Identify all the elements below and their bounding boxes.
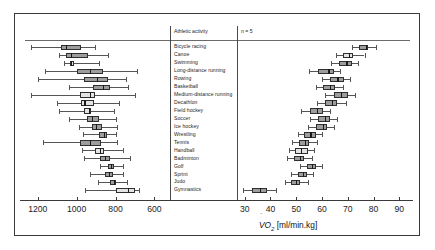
axis-tick-label: 600 bbox=[136, 204, 172, 214]
whisker-cap-lower bbox=[317, 101, 318, 106]
axis-tick-label: 800 bbox=[98, 204, 134, 214]
activity-label: Soccer bbox=[174, 116, 190, 122]
box-quartile-range bbox=[325, 100, 338, 105]
whisker-cap-lower bbox=[285, 180, 286, 185]
panel-divider-right bbox=[237, 26, 238, 200]
whisker-cap-upper bbox=[313, 172, 314, 177]
activity-label: Rowing bbox=[174, 76, 191, 82]
box-quartile-range bbox=[339, 61, 352, 66]
whisker-cap-lower bbox=[352, 45, 353, 50]
whisker-cap-lower bbox=[325, 93, 326, 98]
activity-label: Gymnastics bbox=[174, 187, 201, 193]
median-line bbox=[332, 100, 333, 105]
median-line bbox=[260, 188, 261, 193]
median-line bbox=[346, 61, 347, 66]
axis-tick bbox=[374, 197, 375, 200]
whisker-cap-upper bbox=[355, 93, 356, 98]
whisker-cap-upper bbox=[308, 180, 309, 185]
axis-tick-label: 1000 bbox=[59, 204, 95, 214]
box-plot-row bbox=[15, 186, 421, 195]
whisker-cap-lower bbox=[309, 69, 310, 74]
activity-label: Decathlon bbox=[174, 100, 197, 106]
median-line bbox=[296, 180, 297, 185]
median-line bbox=[305, 140, 306, 145]
box-quartile-range bbox=[318, 69, 333, 74]
median-line bbox=[303, 172, 304, 177]
axis-tick bbox=[245, 197, 246, 200]
axis-tick bbox=[348, 197, 349, 200]
axis-tick bbox=[116, 197, 117, 200]
whisker-cap-upper bbox=[343, 85, 344, 90]
box-quartile-range bbox=[294, 156, 304, 161]
whisker-cap-lower bbox=[322, 77, 323, 82]
whisker-cap-upper bbox=[350, 77, 351, 82]
whisker-cap-lower bbox=[336, 53, 337, 58]
whisker-cap-lower bbox=[310, 117, 311, 122]
figure-frame: Bicycle racingCanoeSwimmingLong-distance… bbox=[14, 13, 420, 236]
activity-label: Long-distance running bbox=[174, 68, 225, 74]
whisker-cap-lower bbox=[292, 140, 293, 145]
whisker-cap-lower bbox=[300, 164, 301, 169]
activity-label: Basketball bbox=[174, 84, 198, 90]
axis-tick bbox=[399, 197, 400, 200]
activity-label: Judo bbox=[174, 179, 185, 185]
x-axis-line bbox=[20, 200, 413, 201]
whisker-cap-upper bbox=[322, 164, 323, 169]
median-line bbox=[366, 45, 367, 50]
median-line bbox=[301, 148, 302, 153]
whisker-cap-upper bbox=[322, 132, 323, 137]
median-line bbox=[337, 77, 338, 82]
whisker-cap-upper bbox=[276, 188, 277, 193]
column-header-activity: Athletic activity bbox=[174, 28, 208, 34]
axis-tick-label: 1200 bbox=[20, 204, 56, 214]
axis-tick bbox=[296, 197, 297, 200]
header-rule bbox=[25, 40, 410, 41]
whisker-cap-upper bbox=[334, 125, 335, 130]
axis-title-o2: O2 bbox=[265, 220, 275, 230]
median-line bbox=[325, 116, 326, 121]
whisker-cap-lower bbox=[316, 85, 317, 90]
whisker-cap-upper bbox=[317, 140, 318, 145]
median-line bbox=[323, 124, 324, 129]
whisker-cap-upper bbox=[346, 101, 347, 106]
axis-title-units: [ml/min.kg] bbox=[274, 220, 317, 230]
axis-tick bbox=[270, 197, 271, 200]
activity-label: Swimming bbox=[174, 60, 198, 66]
axis-tick bbox=[322, 197, 323, 200]
activity-label: Field hockey bbox=[174, 108, 203, 114]
axis-tick-label: 90 bbox=[381, 204, 417, 214]
whisker-cap-upper bbox=[330, 109, 331, 114]
activity-label: Handball bbox=[174, 148, 195, 154]
figure-container: Bicycle racingCanoeSwimmingLong-distance… bbox=[0, 0, 435, 250]
whisker-cap-lower bbox=[287, 156, 288, 161]
median-line bbox=[317, 108, 318, 113]
box-quartile-range bbox=[343, 53, 353, 58]
median-line bbox=[312, 164, 313, 169]
whisker-cap-lower bbox=[291, 172, 292, 177]
median-line bbox=[310, 132, 311, 137]
sample-size-note: n = 5 bbox=[241, 28, 252, 34]
box-quartile-range bbox=[359, 45, 368, 50]
activity-label: Canoe bbox=[174, 52, 189, 58]
whisker-cap-lower bbox=[301, 109, 302, 114]
whisker-cap-upper bbox=[312, 156, 313, 161]
box-quartile-range bbox=[316, 124, 328, 129]
whisker-cap-lower bbox=[289, 148, 290, 153]
median-line bbox=[330, 85, 331, 90]
median-line bbox=[341, 92, 342, 97]
axis-tick bbox=[38, 197, 39, 200]
x-axis-title: VO2 [ml/min.kg] bbox=[259, 220, 317, 232]
panel-divider-left bbox=[170, 26, 171, 200]
activity-label: Badminton bbox=[174, 156, 199, 162]
axis-tick bbox=[154, 197, 155, 200]
box-quartile-range bbox=[299, 140, 309, 145]
whisker-cap-lower bbox=[298, 132, 299, 137]
vdot-symbol: V bbox=[259, 220, 265, 230]
whisker-cap-lower bbox=[331, 61, 332, 66]
median-line bbox=[300, 156, 301, 161]
activity-label: Tennis bbox=[174, 140, 189, 146]
activity-label: Medium-distance running bbox=[174, 92, 232, 98]
activity-label: Ice hockey bbox=[174, 124, 199, 130]
median-line bbox=[349, 53, 350, 58]
whisker-cap-upper bbox=[340, 69, 341, 74]
